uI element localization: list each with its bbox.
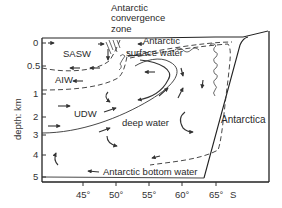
bottom-water-label: Antarctic bottom water (103, 167, 198, 177)
convergence-mixing (106, 40, 125, 70)
surface-water-label-2: surface water (126, 48, 183, 58)
x-tick-55: 55° (142, 190, 156, 200)
udw-label: UDW (74, 109, 97, 119)
x-tick-45: 45° (76, 190, 90, 200)
x-tick-60: 60° (175, 190, 189, 200)
antarctica-slope (204, 37, 248, 178)
x-tick-50: 50° (109, 190, 123, 200)
aiw-label: AIW (55, 75, 73, 85)
y-tick-0-5: 0.5 (27, 61, 40, 71)
x-axis-unit: S (230, 190, 236, 200)
y-tick-0: 0 (33, 38, 38, 48)
convergence-zone-label-3: zone (111, 24, 132, 34)
antarctica-label: Antarctica (221, 115, 265, 125)
y-tick-4: 4 (33, 150, 38, 160)
bottom-water-boundary (42, 177, 204, 178)
convergence-zone-label-2: convergence (111, 13, 165, 23)
y-axis-label: depth: km (12, 98, 23, 140)
deep-water-label: deep water (122, 118, 169, 128)
sasw-label: SASW (63, 49, 91, 59)
y-tick-3: 3 (33, 130, 38, 140)
flow-arrows (48, 43, 203, 172)
x-tick-65: 65° (209, 190, 223, 200)
y-tick-5: 5 (33, 172, 38, 182)
y-tick-2: 2 (33, 112, 38, 122)
surface-water-label-1: Antarctic (143, 36, 180, 46)
y-tick-1: 1 (33, 89, 38, 99)
